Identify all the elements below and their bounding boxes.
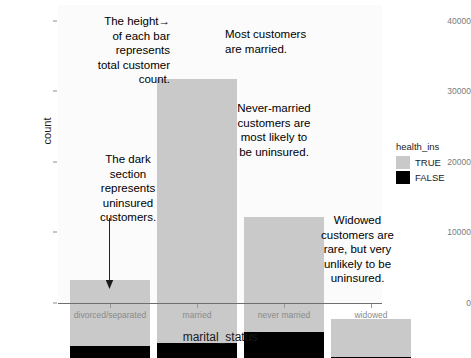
annotation-down-arrow-icon — [104, 218, 115, 290]
annotation-widowed-rare: Widowed customers are rare, but very unl… — [305, 213, 410, 286]
stacked-bar-chart: 40000 30000 20000 10000 0 divorced/separ… — [0, 0, 471, 358]
annotation-bar-height: The height→ of each bar represents total… — [52, 14, 170, 87]
legend-swatch-false — [396, 171, 410, 184]
x-tick-label-widowed: widowed — [354, 310, 387, 320]
legend: health_ins TRUE FALSE — [396, 141, 468, 185]
x-axis-line — [58, 303, 382, 304]
y-tick-mark-10000 — [53, 232, 57, 233]
x-tick-mark-never-married — [284, 304, 285, 308]
y-tick-mark-0 — [53, 303, 57, 304]
y-tick-label-30000: 30000 — [423, 86, 471, 96]
x-tick-mark-widowed — [371, 304, 372, 308]
annotation-most-married: Most customers are married. — [225, 27, 355, 56]
x-axis-title: marital_status — [58, 330, 382, 344]
legend-item-true[interactable]: TRUE — [396, 155, 468, 170]
x-tick-label-divorced-separated: divorced/separated — [74, 310, 146, 320]
x-tick-label-married: married — [183, 310, 212, 320]
legend-title: health_ins — [396, 141, 468, 152]
y-tick-label-0: 0 — [423, 298, 471, 308]
x-tick-label-never-married: never married — [258, 310, 310, 320]
x-tick-mark-divorced-separated — [110, 304, 111, 308]
annotation-dark-section: The dark section represents uninsured cu… — [76, 152, 180, 225]
y-tick-label-40000: 40000 — [423, 16, 471, 26]
legend-item-false[interactable]: FALSE — [396, 170, 468, 185]
y-axis-title: count — [41, 86, 53, 176]
bar-segment-false — [157, 343, 237, 358]
annotation-never-married-uninsured: Never-married customers are most likely … — [213, 101, 335, 159]
legend-label-false: FALSE — [415, 172, 445, 183]
y-tick-label-10000: 10000 — [423, 227, 471, 237]
legend-label-true: TRUE — [415, 157, 441, 168]
y-tick-mark-20000 — [53, 162, 57, 163]
legend-swatch-true — [396, 156, 410, 169]
x-tick-mark-married — [197, 304, 198, 308]
y-tick-mark-30000 — [53, 91, 57, 92]
bar-segment-false — [70, 346, 150, 358]
